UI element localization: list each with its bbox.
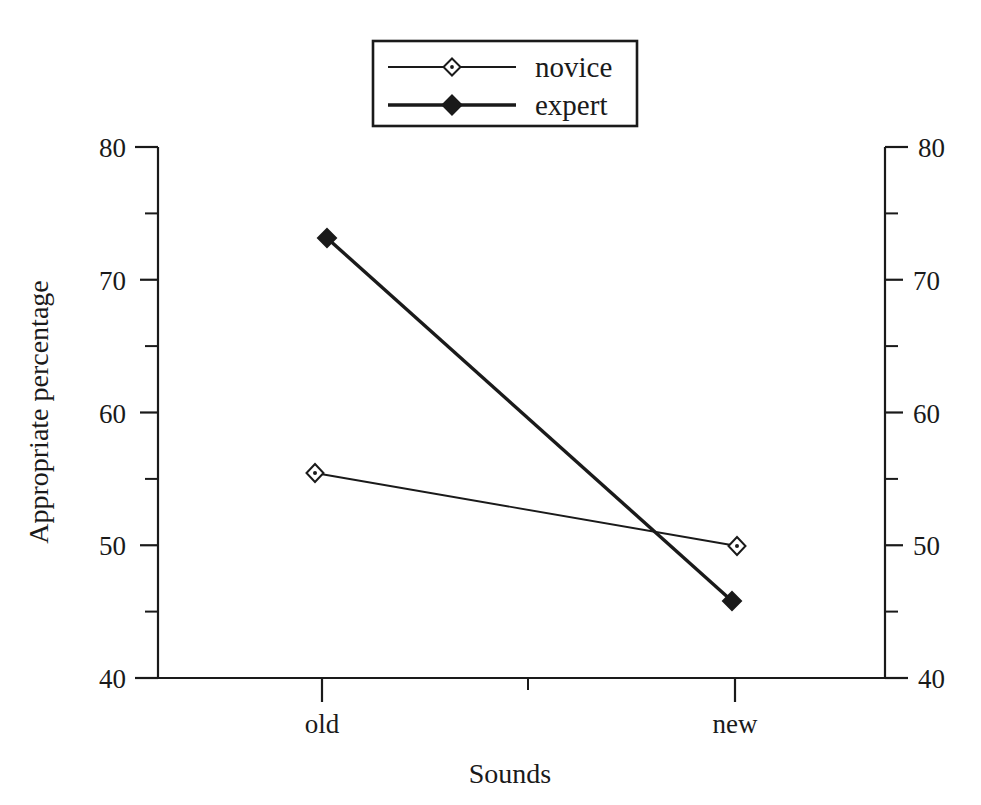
y-right-tick-label-50: 50 [913,531,940,561]
y-axis-title: Appropriate percentage [23,280,54,544]
series-expert-line [327,238,732,601]
chart-legend: novice expert [373,41,637,126]
series-novice [307,464,746,555]
legend-label-novice: novice [535,51,612,83]
y-right-tick-label-60: 60 [913,399,940,429]
series-novice-point-new-center [735,544,739,548]
x-axis-title: Sounds [469,758,551,789]
y-axis-left: 80 70 60 50 40 [99,133,158,694]
x-tick-label-old: old [305,709,340,739]
legend-label-expert: expert [535,89,607,121]
y-right-tick-label-70: 70 [913,266,940,296]
y-tick-label-70: 70 [99,266,126,296]
y-right-tick-label-40: 40 [918,664,945,694]
open-diamond-center-dot-icon [450,65,454,69]
y-tick-label-50: 50 [99,531,126,561]
y-tick-label-40: 40 [99,664,126,694]
y-tick-label-60: 60 [99,399,126,429]
chart-figure: novice expert 80 70 [0,0,981,805]
y-axis-right: 80 70 60 50 40 [885,133,945,694]
series-novice-point-old-center [313,471,317,475]
y-tick-label-80: 80 [99,133,126,163]
y-right-tick-label-80: 80 [918,133,945,163]
legend-item-expert[interactable]: expert [388,89,607,121]
x-tick-label-new: new [713,709,758,739]
line-chart: novice expert 80 70 [0,0,981,805]
series-expert [318,229,741,610]
series-novice-line [315,473,737,546]
filled-diamond-icon [443,96,462,115]
legend-item-novice[interactable]: novice [388,51,612,83]
x-axis: old new Sounds [158,678,885,789]
